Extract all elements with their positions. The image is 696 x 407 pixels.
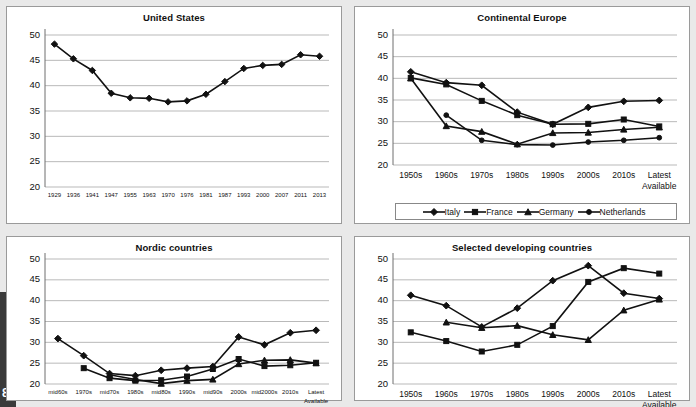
svg-text:mid2000s: mid2000s [251,389,277,395]
svg-text:2010s: 2010s [612,389,635,399]
legend-label: Netherlands [600,207,650,217]
svg-text:30: 30 [377,115,388,126]
svg-text:2010s: 2010s [282,389,298,395]
panel-selected-developing-countries: Selected developing countries 2025303540… [348,230,696,407]
svg-text:40: 40 [29,79,40,90]
legend-label: France [486,207,516,217]
svg-text:35: 35 [29,105,40,116]
svg-text:1941: 1941 [86,192,100,198]
svg-text:1987: 1987 [218,192,232,198]
legend-marker-triangle-icon [517,206,539,218]
svg-text:2000s: 2000s [577,170,600,180]
svg-text:1929: 1929 [48,192,62,198]
legend-marker-circle-icon [578,206,600,218]
chart-legend: ItalyFranceGermanyNetherlands [395,203,677,220]
svg-text:1980s: 1980s [506,170,529,180]
svg-text:Available: Available [642,181,677,191]
legend-item-netherlands: Netherlands [578,206,650,218]
svg-text:1993: 1993 [237,192,251,198]
svg-text:1955: 1955 [124,192,138,198]
panel-united-states: United States 20253035404550192919361941… [0,0,348,230]
svg-text:1947: 1947 [105,192,119,198]
svg-text:mid60s: mid60s [48,389,67,395]
svg-text:25: 25 [377,357,388,368]
svg-text:30: 30 [29,130,40,141]
legend-marker-diamond-icon [423,206,445,218]
svg-text:1980s: 1980s [127,389,143,395]
svg-text:40: 40 [377,72,388,83]
svg-text:35: 35 [377,94,388,105]
chart-selected-developing-countries: 202530354045501950s1960s1970s1980s1990s2… [355,237,691,402]
svg-text:40: 40 [377,294,388,305]
svg-text:45: 45 [377,50,388,61]
svg-text:1970s: 1970s [470,389,493,399]
legend-item-germany: Germany [517,206,578,218]
svg-text:20: 20 [377,378,388,389]
svg-text:45: 45 [29,54,40,65]
svg-text:50: 50 [29,29,40,40]
svg-text:50: 50 [29,253,40,264]
svg-text:50: 50 [377,29,388,40]
svg-text:20: 20 [29,378,40,389]
legend-item-france: France [464,206,516,218]
svg-text:Available: Available [642,400,677,407]
svg-text:mid90s: mid90s [203,389,222,395]
svg-text:2010s: 2010s [612,170,635,180]
svg-text:Latest: Latest [648,389,672,399]
svg-text:1990s: 1990s [179,389,195,395]
svg-text:1970s: 1970s [76,389,92,395]
svg-text:2000s: 2000s [577,389,600,399]
svg-text:1970: 1970 [161,192,175,198]
svg-text:1990s: 1990s [541,389,564,399]
legend-item-italy: Italy [423,206,465,218]
svg-text:50: 50 [377,253,388,264]
svg-text:25: 25 [377,137,388,148]
svg-text:2011: 2011 [294,192,308,198]
svg-text:25: 25 [29,357,40,368]
svg-text:30: 30 [29,336,40,347]
svg-text:20: 20 [377,159,388,170]
svg-text:1936: 1936 [67,192,81,198]
legend-label: Germany [539,207,578,217]
svg-text:2013: 2013 [313,192,327,198]
svg-text:1981: 1981 [199,192,213,198]
svg-text:Latest: Latest [648,170,672,180]
legend-marker-square-icon [464,206,486,218]
svg-text:Available: Available [304,398,329,404]
svg-text:1976: 1976 [180,192,194,198]
svg-text:35: 35 [29,315,40,326]
svg-text:1963: 1963 [142,192,156,198]
svg-text:1950s: 1950s [399,170,422,180]
svg-text:2000: 2000 [256,192,270,198]
chart-united-states: 2025303540455019291936194119471955196319… [7,7,343,225]
svg-text:25: 25 [29,155,40,166]
svg-text:1950s: 1950s [399,389,422,399]
legend-label: Italy [445,207,465,217]
svg-text:1960s: 1960s [435,170,458,180]
svg-text:Latest: Latest [308,389,325,395]
svg-text:1960s: 1960s [435,389,458,399]
svg-text:2007: 2007 [275,192,289,198]
panel-continental-europe: Continental Europe 202530354045501950s19… [348,0,696,230]
svg-text:45: 45 [377,273,388,284]
chart-continental-europe: 202530354045501950s1960s1970s1980s1990s2… [355,7,691,225]
svg-text:1980s: 1980s [506,389,529,399]
svg-text:40: 40 [29,294,40,305]
svg-text:2000s: 2000s [230,389,246,395]
svg-text:35: 35 [377,315,388,326]
svg-text:1970s: 1970s [470,170,493,180]
svg-text:mid80s: mid80s [152,389,171,395]
svg-text:1990s: 1990s [541,170,564,180]
svg-text:45: 45 [29,273,40,284]
charts-grid: United States 20253035404550192919361941… [0,0,696,407]
chart-nordic-countries: 20253035404550mid60s1970smid70s1980smid8… [7,237,343,402]
panel-nordic-countries: Nordic countries 20253035404550mid60s197… [0,230,348,407]
svg-text:30: 30 [377,336,388,347]
svg-text:20: 20 [29,181,40,192]
svg-text:mid70s: mid70s [100,389,119,395]
